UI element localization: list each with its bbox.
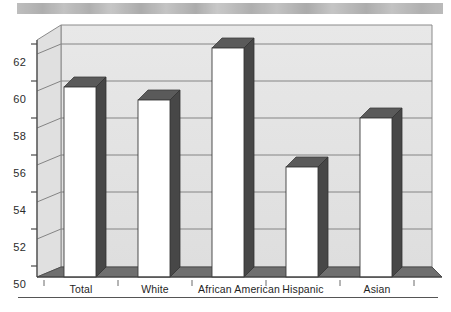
redacted-title-band	[17, 3, 443, 14]
bar-white[interactable]	[138, 90, 180, 277]
bottom-divider	[18, 297, 438, 298]
x-label-total: Total	[51, 283, 111, 295]
y-tick-label-56: 56	[2, 167, 26, 179]
y-axis	[31, 40, 37, 277]
bar-chart: 62 60 58 56 54 52 50	[0, 18, 451, 286]
bar-total[interactable]	[64, 77, 106, 277]
bar-asian[interactable]	[360, 108, 402, 277]
y-tick-label-52: 52	[2, 241, 26, 253]
bar-african-american[interactable]	[212, 38, 254, 277]
x-axis-labels: Total White African American Hispanic As…	[0, 283, 451, 301]
x-label-hispanic: Hispanic	[273, 283, 333, 295]
x-label-asian: Asian	[347, 283, 407, 295]
y-tick-label-60: 60	[2, 93, 26, 105]
y-tick-label-58: 58	[2, 130, 26, 142]
plot-left-wall	[37, 25, 61, 277]
y-tick-label-54: 54	[2, 204, 26, 216]
bar-hispanic[interactable]	[286, 157, 328, 277]
chart-page: 62 60 58 56 54 52 50 Total White African…	[0, 0, 451, 312]
y-tick-label-62: 62	[2, 56, 26, 68]
chart-canvas	[0, 18, 451, 286]
